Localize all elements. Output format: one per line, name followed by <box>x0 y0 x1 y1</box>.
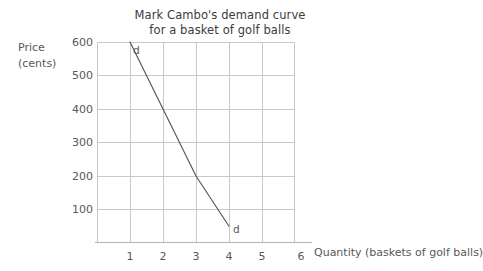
x-tick-5: 5 <box>253 251 271 262</box>
y-tick-300: 300 <box>59 137 93 148</box>
demand-curve <box>130 42 229 226</box>
curve-label-bottom: d <box>233 224 240 235</box>
plot-area: d d <box>97 42 295 243</box>
x-tick-4: 4 <box>220 251 238 262</box>
x-axis-label: Quantity (baskets of golf balls) <box>314 246 483 259</box>
y-tick-600: 600 <box>59 37 93 48</box>
y-tick-400: 400 <box>59 104 93 115</box>
x-tick-3: 3 <box>187 251 205 262</box>
x-tick-6: 6 <box>292 251 310 262</box>
plot-svg <box>97 42 295 243</box>
curve-label-top: d <box>133 45 140 56</box>
y-tick-200: 200 <box>59 171 93 182</box>
x-tick-2: 2 <box>154 251 172 262</box>
y-tick-100: 100 <box>59 204 93 215</box>
y-tick-500: 500 <box>59 70 93 81</box>
x-tick-1: 1 <box>121 251 139 262</box>
chart-title: Mark Cambo's demand curve for a basket o… <box>108 8 332 38</box>
